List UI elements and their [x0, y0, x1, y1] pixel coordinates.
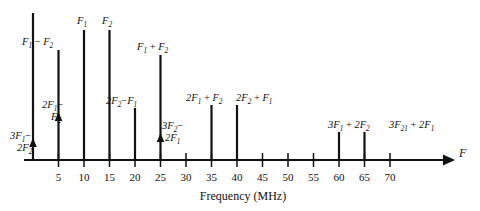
spike-label-F1-F2: F1 − F2 — [21, 36, 54, 50]
spike-label-F1+F2: F1 + F2 — [136, 41, 169, 55]
spike-label-3F1+2F2: 3F1 + 2F2 — [327, 119, 370, 133]
tick-label-40: 40 — [232, 171, 244, 183]
tick-label-65: 65 — [359, 171, 371, 183]
tick-label-30: 30 — [181, 171, 193, 183]
spike-label-2F2-F1: 2F2−F1 — [106, 95, 137, 109]
base-marker-group — [29, 112, 164, 147]
tick-label-group: 5 10 15 20 25 30 35 40 45 50 55 60 65 70 — [56, 171, 396, 183]
tick-label-25: 25 — [155, 171, 167, 183]
spike-group — [33, 13, 365, 160]
spike-label-F2: F2 — [101, 15, 112, 29]
tick-label-5: 5 — [56, 171, 62, 183]
axis-arrowhead — [443, 155, 455, 166]
tick-label-45: 45 — [257, 171, 269, 183]
tick-label-60: 60 — [334, 171, 346, 183]
base-marker-3F2-2F1 — [157, 133, 165, 142]
spike-label-2F2+F1: 2F2 + F1 — [236, 92, 272, 106]
tick-label-15: 15 — [104, 171, 116, 183]
spectrum-svg: F 5 10 15 20 25 30 35 40 45 50 55 60 65 … — [0, 0, 480, 211]
axis-title: Frequency (MHz) — [200, 189, 286, 203]
spike-label-2F1+F2: 2F1 + F2 — [186, 92, 223, 106]
tick-label-10: 10 — [79, 171, 91, 183]
marker-label-2F1-F2: 2F1− F2 — [42, 99, 66, 125]
tick-label-35: 35 — [206, 171, 218, 183]
axis-variable-label: F — [458, 146, 467, 160]
spike-label-group: 3F1− 2F2 F1 − F2 2F1− F2 F1 F2 2F2 — [9, 15, 434, 156]
marker-label-3F2-2F1: 3F2− 2F1 — [161, 120, 186, 146]
spike-label-3F1-2F2: 3F1− 2F2 — [9, 130, 34, 156]
tick-label-50: 50 — [283, 171, 295, 183]
tick-label-55: 55 — [308, 171, 320, 183]
spike-label-F1: F1 — [76, 15, 87, 29]
spike-label-3F21+2F1: 3F21 + 2F1 — [388, 119, 434, 133]
tick-label-20: 20 — [130, 171, 142, 183]
spectrum-diagram: F 5 10 15 20 25 30 35 40 45 50 55 60 65 … — [0, 0, 480, 211]
tick-label-70: 70 — [385, 171, 397, 183]
